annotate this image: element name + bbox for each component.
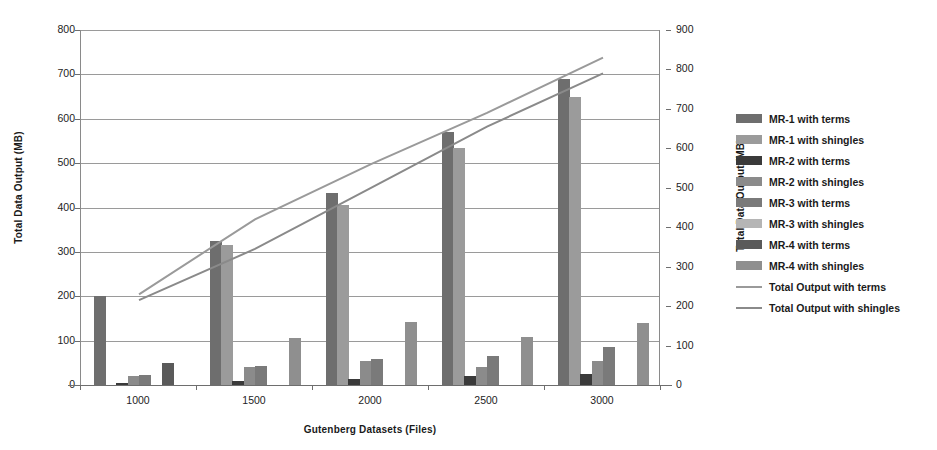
y-axis-left-tick-label: 300	[35, 245, 75, 257]
legend-item: MR-3 with shingles	[736, 213, 932, 234]
x-axis-tick	[196, 385, 197, 390]
x-axis-tick	[544, 385, 545, 390]
y-axis-right-tick	[666, 188, 671, 189]
legend-item-label: MR-4 with shingles	[769, 260, 864, 272]
y-axis-right-tick-label: 100	[676, 339, 716, 351]
legend-item: MR-2 with shingles	[736, 171, 932, 192]
legend-item: Total Output with shingles	[736, 297, 932, 318]
legend-item-label: MR-3 with shingles	[769, 218, 864, 230]
y-axis-right-tick-label: 900	[676, 23, 716, 35]
x-axis-tick	[428, 385, 429, 390]
x-axis-tick	[312, 385, 313, 390]
y-axis-right-tick-label: 200	[676, 299, 716, 311]
chart-legend: MR-1 with termsMR-1 with shinglesMR-2 wi…	[736, 108, 932, 318]
y-axis-right-tick-label: 800	[676, 62, 716, 74]
y-axis-left-tick-label: 700	[35, 67, 75, 79]
legend-item-label: MR-3 with terms	[769, 197, 850, 209]
y-axis-left-title: Total Data Output (MB)	[13, 108, 24, 268]
y-axis-right-tick-label: 500	[676, 181, 716, 193]
legend-line-icon	[736, 307, 762, 309]
legend-item: MR-1 with shingles	[736, 129, 932, 150]
legend-item: MR-4 with shingles	[736, 255, 932, 276]
legend-item: MR-2 with terms	[736, 150, 932, 171]
y-axis-left-tick-label: 100	[35, 334, 75, 346]
x-axis-category-label: 1500	[204, 394, 304, 406]
line-series	[139, 58, 603, 295]
x-axis-category-label: 3000	[552, 394, 652, 406]
y-axis-right-tick	[666, 346, 671, 347]
y-axis-right-tick	[666, 69, 671, 70]
y-axis-left-tick-label: 600	[35, 112, 75, 124]
y-axis-left: 8007006005004003002001000	[30, 30, 75, 385]
x-axis-line	[68, 385, 672, 386]
y-axis-right-tick-label: 600	[676, 141, 716, 153]
y-axis-right-tick	[666, 148, 671, 149]
legend-item: Total Output with terms	[736, 276, 932, 297]
legend-item: MR-4 with terms	[736, 234, 932, 255]
y-axis-right: 9008007006005004003002001000	[666, 30, 711, 385]
legend-item-label: MR-1 with shingles	[769, 134, 864, 146]
y-axis-right-tick	[666, 306, 671, 307]
y-axis-left-tick-label: 500	[35, 156, 75, 168]
legend-swatch-icon	[736, 198, 762, 207]
y-axis-right-tick	[666, 30, 671, 31]
legend-swatch-icon	[736, 114, 762, 123]
legend-swatch-icon	[736, 156, 762, 165]
legend-item-label: MR-1 with terms	[769, 113, 850, 125]
x-axis-title: Gutenberg Datasets (Files)	[80, 424, 660, 435]
x-axis-category-label: 2000	[320, 394, 420, 406]
legend-item-label: MR-2 with terms	[769, 155, 850, 167]
chart-canvas: Total Data Output (MB) 80070060050040030…	[0, 0, 937, 450]
x-axis-tick	[80, 385, 81, 390]
legend-swatch-icon	[736, 240, 762, 249]
legend-item-label: Total Output with shingles	[769, 302, 900, 314]
legend-item-label: MR-4 with terms	[769, 239, 850, 251]
y-axis-right-tick-label: 0	[676, 378, 716, 390]
legend-swatch-icon	[736, 135, 762, 144]
y-axis-right-tick-label: 300	[676, 260, 716, 272]
legend-line-icon	[736, 286, 762, 288]
y-axis-right-tick-label: 400	[676, 220, 716, 232]
line-series	[139, 73, 603, 300]
legend-item: MR-3 with terms	[736, 192, 932, 213]
y-axis-left-tick-label: 800	[35, 23, 75, 35]
y-axis-right-tick	[666, 109, 671, 110]
y-axis-left-tick-label: 0	[35, 378, 75, 390]
y-axis-right-tick-label: 700	[676, 102, 716, 114]
x-axis-category-label: 2500	[436, 394, 536, 406]
legend-swatch-icon	[736, 219, 762, 228]
legend-item-label: MR-2 with shingles	[769, 176, 864, 188]
x-axis-category-label: 1000	[88, 394, 188, 406]
plot-area	[80, 30, 660, 385]
y-axis-left-tick-label: 400	[35, 201, 75, 213]
legend-item-label: Total Output with terms	[769, 281, 886, 293]
x-axis-tick	[660, 385, 661, 390]
legend-swatch-icon	[736, 261, 762, 270]
y-axis-right-tick	[666, 227, 671, 228]
line-series-group	[81, 30, 661, 385]
legend-item: MR-1 with terms	[736, 108, 932, 129]
legend-swatch-icon	[736, 177, 762, 186]
y-axis-left-tick-label: 200	[35, 289, 75, 301]
y-axis-right-tick	[666, 267, 671, 268]
